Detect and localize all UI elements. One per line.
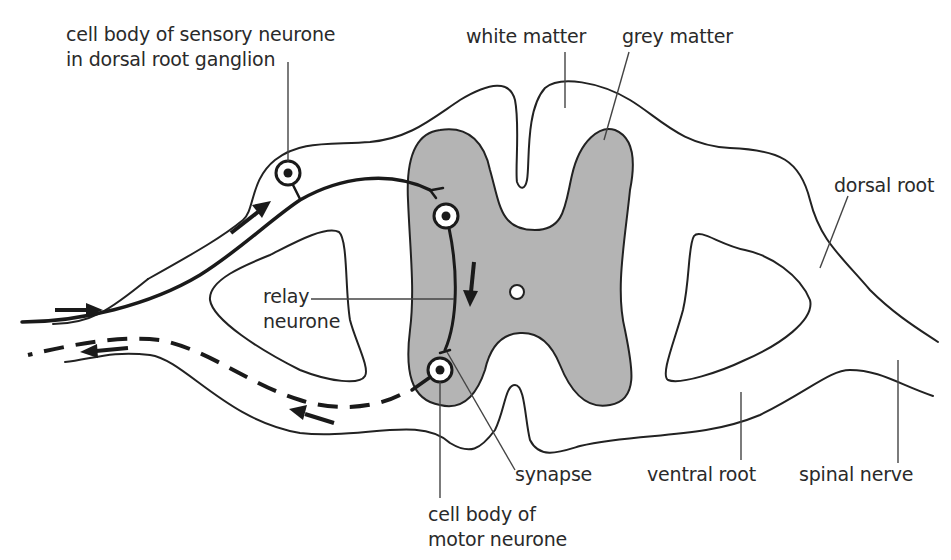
- label-white-matter: white matter: [466, 24, 586, 49]
- label-motor-cell-body-line1: cell body of: [428, 502, 567, 527]
- central-canal: [510, 285, 524, 299]
- label-motor-cell-body-line2: motor neurone: [428, 527, 567, 552]
- label-relay-neurone-line2: neurone: [263, 309, 340, 334]
- label-dorsal-root: dorsal root: [834, 173, 934, 198]
- sensory-cell-stalk: [293, 185, 300, 199]
- label-sensory-cell-body-line1: cell body of sensory neurone: [66, 22, 335, 47]
- motor-cell-nucleus: [436, 366, 445, 375]
- right-white-matter-region: [666, 234, 811, 381]
- label-relay-neurone-line1: relay: [263, 284, 340, 309]
- label-relay-neurone: relay neurone: [263, 284, 340, 334]
- label-sensory-cell-body: cell body of sensory neurone in dorsal r…: [66, 22, 335, 72]
- leader-grey-matter: [604, 52, 629, 140]
- label-sensory-cell-body-line2: in dorsal root ganglion: [66, 47, 335, 72]
- relay-cell-nucleus: [442, 212, 451, 221]
- sensory-neurone-axon: [22, 178, 430, 322]
- sensory-cell-nucleus: [284, 169, 293, 178]
- spinal-cord-outline-lower: [65, 354, 933, 453]
- label-ventral-root: ventral root: [647, 462, 756, 487]
- label-spinal-nerve: spinal nerve: [799, 462, 913, 487]
- label-grey-matter: grey matter: [622, 24, 733, 49]
- leader-dorsal-root: [820, 196, 848, 268]
- label-synapse: synapse: [515, 462, 592, 487]
- label-motor-cell-body: cell body of motor neurone: [428, 502, 567, 552]
- motor-neurone-axon: [28, 339, 400, 407]
